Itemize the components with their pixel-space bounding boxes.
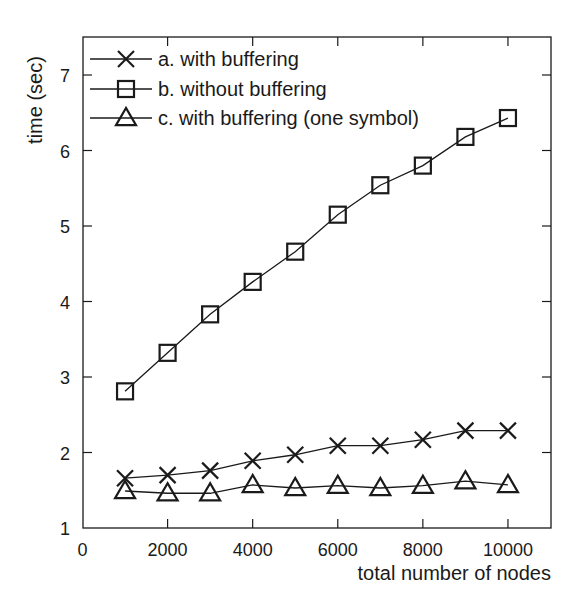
- y-tick-label: 2: [60, 444, 70, 464]
- y-tick-label: 5: [60, 217, 70, 237]
- y-axis-label: time (sec): [24, 56, 46, 144]
- x-tick-label: 2000: [148, 540, 188, 560]
- series-square: [117, 110, 516, 399]
- x-axis-label: total number of nodes: [358, 562, 551, 584]
- legend-label: b. without buffering: [158, 78, 327, 100]
- legend-item: b. without buffering: [90, 78, 327, 100]
- legend-item: c. with buffering (one symbol): [90, 107, 419, 129]
- y-tick-label: 4: [60, 293, 70, 313]
- x-tick-label: 6000: [318, 540, 358, 560]
- y-tick-label: 3: [60, 368, 70, 388]
- y-tick-label: 1: [60, 519, 70, 539]
- legend-label: c. with buffering (one symbol): [158, 107, 419, 129]
- x-tick-label: 8000: [403, 540, 443, 560]
- series-x: [117, 423, 516, 487]
- y-tick-label: 7: [60, 66, 70, 86]
- legend-label: a. with buffering: [158, 48, 299, 70]
- data-series: [115, 110, 518, 500]
- legend: a. with bufferingb. without bufferingc. …: [90, 48, 419, 129]
- y-axis-ticks: 1234567: [60, 66, 551, 539]
- x-tick-label: 10000: [483, 540, 533, 560]
- y-tick-label: 6: [60, 142, 70, 162]
- x-tick-label: 4000: [233, 540, 273, 560]
- legend-item: a. with buffering: [90, 48, 299, 70]
- series-triangle: [115, 471, 518, 500]
- line-chart: 1234567 0200040006000800010000 time (sec…: [0, 0, 579, 612]
- x-tick-label: 0: [77, 540, 87, 560]
